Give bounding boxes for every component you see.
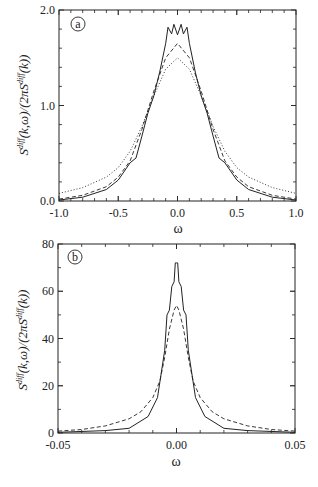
x-tick-label: -0.05 [46,438,71,452]
panel-letter-b: b [72,250,78,264]
x-tick-labels-a: -1.0-0.50.00.51.0 [50,206,304,220]
y-tick-label: 1.0 [40,99,55,113]
curve-dashed [59,43,296,199]
plot-frame-b [58,244,295,433]
y-axis-label-b: Sdiff(k,ω)/(2πSdiff(k)) [15,290,30,391]
y-tick-label: 20 [42,379,54,393]
x-tick-label: -1.0 [50,206,69,220]
curve-dashed [58,305,295,431]
plot-frame-a [59,10,296,201]
curves-b [58,263,295,432]
ticks-b [58,244,295,433]
curves-a [59,24,296,200]
y-tick-labels-b: 020406080 [42,237,54,440]
x-tick-label: -0.5 [109,206,128,220]
panel-a: a -1.0-0.50.00.51.0 0.01.02.0 ω Sdiff(k,… [16,3,304,236]
x-axis-label-a: ω [173,221,182,236]
ticks-a [59,10,296,201]
x-tick-label: 0.00 [166,438,187,452]
x-tick-label: 0.0 [170,206,185,220]
x-axis-label-b: ω [171,454,180,469]
curve-dotted [59,58,296,194]
x-tick-label: 1.0 [289,206,304,220]
y-tick-label: 80 [42,237,54,251]
y-tick-label: 40 [42,332,54,346]
y-axis-label-a: Sdiff(k,ω)/(2πSdiff(k)) [16,55,31,156]
y-tick-label: 0 [48,426,54,440]
curve-solid [59,24,296,200]
y-tick-label: 60 [42,284,54,298]
x-tick-label: 0.5 [229,206,244,220]
x-tick-label: 0.05 [285,438,306,452]
y-tick-labels-a: 0.01.02.0 [40,3,55,208]
curve-solid [58,263,295,432]
x-tick-labels-b: -0.050.000.05 [46,438,306,452]
y-tick-label: 0.0 [40,194,55,208]
y-tick-label: 2.0 [40,3,55,17]
figure: a -1.0-0.50.00.51.0 0.01.02.0 ω Sdiff(k,… [0,0,318,487]
panel-letter-a: a [75,17,81,31]
panel-b: b -0.050.000.05 020406080 ω Sdiff(k,ω)/(… [15,237,306,469]
